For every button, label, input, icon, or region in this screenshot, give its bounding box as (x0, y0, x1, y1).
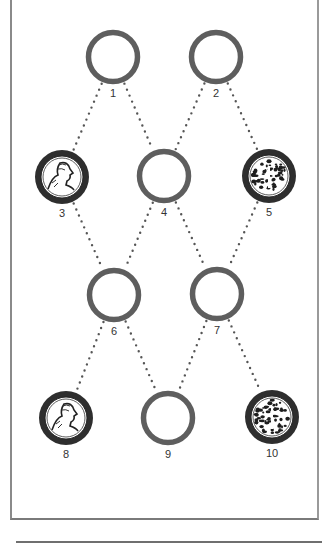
empty-space[interactable] (192, 33, 241, 82)
connection-dotted-line (126, 322, 157, 392)
empty-space[interactable] (144, 394, 193, 443)
node-label: 9 (165, 448, 171, 460)
node-label: 7 (214, 324, 220, 336)
node-label: 2 (213, 87, 219, 99)
empty-space[interactable] (90, 271, 139, 320)
empty-space[interactable] (140, 152, 189, 201)
empty-space[interactable] (89, 33, 138, 82)
node-label: 3 (59, 207, 65, 219)
node-label: 10 (266, 447, 278, 459)
dime-coin-space[interactable] (245, 390, 299, 444)
node-label: 6 (111, 325, 117, 337)
connection-dotted-line (124, 84, 152, 150)
connection-dotted-line (176, 202, 205, 267)
node-label: 1 (110, 87, 116, 99)
connection-dotted-line (125, 203, 153, 269)
node-label: 4 (161, 206, 167, 218)
connection-dotted-line (73, 84, 101, 151)
puzzle-board (0, 0, 328, 543)
node-label: 5 (266, 206, 272, 218)
connection-dotted-line (179, 321, 207, 391)
connection-dotted-line (229, 320, 260, 390)
connection-dotted-line (74, 204, 103, 269)
connection-dotted-line (229, 203, 258, 268)
empty-space[interactable] (193, 270, 242, 319)
node-label: 8 (63, 448, 69, 460)
penny-coin-space[interactable] (35, 150, 89, 204)
connection-dotted-line (228, 83, 257, 149)
dime-coin-space[interactable] (242, 149, 296, 203)
penny-coin-space[interactable] (39, 391, 93, 445)
connection-dotted-line (77, 322, 104, 391)
connection-dotted-line (176, 84, 205, 150)
